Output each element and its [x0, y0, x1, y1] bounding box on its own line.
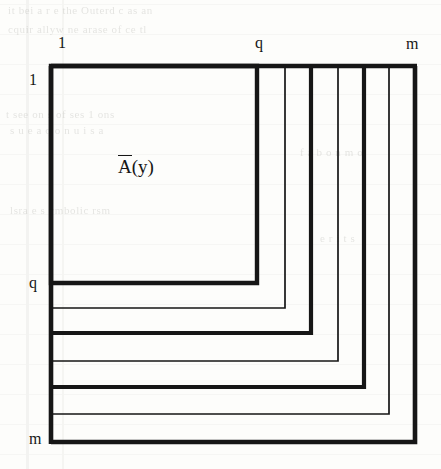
- region-label-suffix: (y): [132, 156, 154, 177]
- column-label-1: 1: [58, 35, 66, 51]
- column-label-m: m: [406, 36, 418, 52]
- column-label-q: q: [255, 35, 263, 51]
- nested-l-shape-3: [51, 66, 311, 333]
- nested-l-shape-5: [51, 66, 364, 387]
- nested-l-shape-2: [51, 66, 285, 308]
- nested-l-shape-1: [51, 66, 257, 283]
- row-label-q: q: [29, 275, 37, 291]
- region-label-A-bar-y: A(y): [118, 155, 154, 178]
- row-label-1: 1: [29, 72, 37, 88]
- figure-canvas: it bei a r e the Outerd c as an cquir al…: [0, 0, 441, 469]
- row-label-m: m: [29, 431, 41, 447]
- nested-l-shapes-svg: [0, 0, 441, 469]
- overbar-A: A: [118, 155, 132, 176]
- nested-l-shape-4: [51, 66, 338, 361]
